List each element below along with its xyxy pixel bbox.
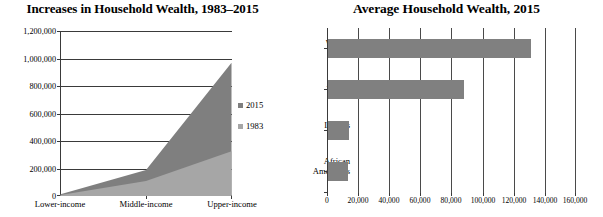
legend-swatch-1983-icon: [238, 124, 243, 129]
left-xtick-label-lower-income: Lower-income: [35, 199, 85, 209]
right-xtick-label-20000: 20,000: [348, 196, 369, 205]
bar-plot-area: 0 20,000 40,000 60,000 80,000 100,000 12…: [327, 28, 576, 193]
right-xtick-label-40000: 40,000: [379, 196, 400, 205]
bar-whites: [328, 39, 531, 58]
area-plot-area: [60, 31, 232, 196]
bar-asians: [328, 80, 464, 99]
left-chart-panel: Increases in Household Wealth, 1983–2015…: [0, 0, 290, 217]
right-cat-tick-3: [324, 130, 327, 131]
right-xtick-label-140000: 140,000: [533, 196, 558, 205]
vgrid-160000: [575, 28, 576, 193]
right-cat-tick-2: [324, 89, 327, 90]
left-xtick-label-middle-income: Middle-income: [120, 199, 173, 209]
left-chart-legend: 2015 1983: [238, 100, 263, 142]
bar-african-americans: [328, 162, 348, 181]
left-ytick-label-1000000: 1,000,000: [23, 54, 56, 63]
right-xtick-label-100000: 100,000: [471, 196, 496, 205]
right-cat-tick-4: [324, 171, 327, 172]
left-xtick-mark-middle: [146, 196, 147, 199]
left-chart-title: Increases in Household Wealth, 1983–2015: [0, 1, 285, 17]
right-xtick-label-80000: 80,000: [441, 196, 462, 205]
legend-label-2015: 2015: [246, 100, 263, 110]
area-series-svg: [60, 31, 232, 196]
right-xtick-label-60000: 60,000: [410, 196, 431, 205]
right-cat-tick-1: [324, 48, 327, 49]
figure-container: Increases in Household Wealth, 1983–2015…: [0, 0, 603, 217]
right-xtick-label-0: 0: [325, 196, 329, 205]
legend-item-2015: 2015: [238, 100, 263, 110]
legend-label-1983: 1983: [246, 121, 263, 131]
left-ytick-label-1200000: 1,200,000: [23, 27, 56, 36]
right-chart-panel: Average Household Wealth, 2015 Whites As…: [290, 0, 603, 217]
left-xtick-mark-upper: [231, 196, 232, 199]
right-xtick-label-160000: 160,000: [563, 196, 588, 205]
legend-swatch-2015-icon: [238, 103, 243, 108]
left-ytick-label-400000: 400,000: [29, 137, 56, 146]
vgrid-140000: [545, 28, 546, 193]
left-xtick-label-upper-income: Upper-income: [207, 199, 256, 209]
right-chart-title: Average Household Wealth, 2015: [290, 1, 603, 17]
left-ytick-label-600000: 600,000: [29, 109, 56, 118]
right-xtick-label-120000: 120,000: [502, 196, 527, 205]
left-ytick-label-200000: 200,000: [29, 164, 56, 173]
left-ytick-label-800000: 800,000: [29, 82, 56, 91]
bar-latinos: [328, 121, 349, 140]
legend-item-1983: 1983: [238, 121, 263, 131]
